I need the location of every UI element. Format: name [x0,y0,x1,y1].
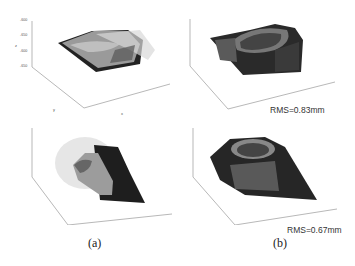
panel-b-bottom: RMS=0.67mm (b) [175,125,355,225]
surface-plot-b-top [175,0,355,125]
panel-b-top: RMS=0.83mm [175,0,355,125]
z-axis-label: z [15,43,17,48]
panel-a-bottom: (a) [0,125,180,225]
surface-plot-b-bottom [175,125,355,225]
surface-plot-a-bottom [0,125,180,225]
caption-b: (b) [273,236,287,251]
x-axis-label: x [121,111,123,116]
rms-annotation: RMS=0.83mm [270,105,325,115]
z-tick: -650 [20,64,27,68]
z-tick: -650 [20,33,27,37]
panel-a-top: -600 -650 -600 -650 z y x [0,0,180,125]
rms-annotation: RMS=0.67mm [287,225,342,235]
caption-a: (a) [88,236,101,251]
y-axis-label: y [53,107,55,112]
z-tick: -600 [20,49,27,53]
z-tick: -600 [20,18,27,22]
